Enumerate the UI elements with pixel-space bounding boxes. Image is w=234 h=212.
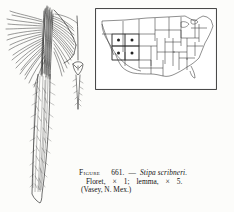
figure-caption: Figure661.—Stipa scribneri. Floret,×1;le… xyxy=(79,169,231,195)
caption-dash: — xyxy=(129,168,137,177)
floret-body xyxy=(30,74,55,203)
caption-attribution: (Vasey, N. Mex.) xyxy=(81,185,131,194)
figure-plate: Figure661.—Stipa scribneri. Floret,×1;le… xyxy=(0,0,234,212)
caption-lemma-magnification: 5. xyxy=(177,177,183,186)
multiplication-icon-2: × xyxy=(166,177,170,186)
caption-line-3: (Vasey, N. Mex.) xyxy=(79,186,231,195)
lemma-head xyxy=(73,62,83,75)
lemma-detail-illustration xyxy=(58,14,100,124)
lemma-awn xyxy=(76,75,80,109)
distribution-map xyxy=(95,8,217,90)
caption-lemma-label: lemma, xyxy=(137,177,159,186)
